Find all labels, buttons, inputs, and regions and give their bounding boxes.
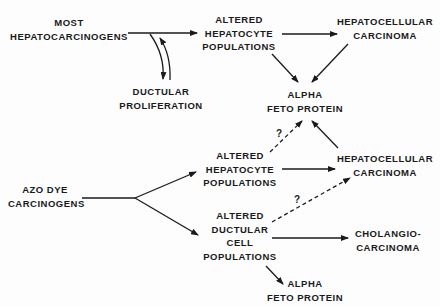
node-label-line: MOST xyxy=(10,16,128,30)
node-hepatocellular-carcinoma-1: HEPATOCELLULAR CARCINOMA xyxy=(335,15,435,42)
edge-hcc-to-afp xyxy=(312,44,348,82)
node-alpha-feto-protein-1: ALPHA FETO PROTEIN xyxy=(262,88,348,115)
node-altered-ductular-cell-populations: ALTERED DUCTULAR CELL POPULATIONS xyxy=(200,209,280,263)
node-label-line: FETO PROTEIN xyxy=(262,102,348,116)
node-label-line: ALPHA xyxy=(263,277,347,291)
node-label-line: CARCINOMA xyxy=(345,241,431,255)
node-label-line: DUCTULAR xyxy=(200,223,280,237)
node-most-hepatocarcinogens: MOST HEPATOCARCINOGENS xyxy=(10,16,128,43)
node-label-line: HEPATOCYTE xyxy=(198,27,280,41)
edge-altered-hep-to-afp xyxy=(272,54,298,82)
node-label-line: ALTERED xyxy=(200,209,280,223)
node-label-line: HEPATOCARCINOGENS xyxy=(10,30,128,44)
node-label-line: POPULATIONS xyxy=(198,40,280,54)
node-label-line: HEPATOCELLULAR xyxy=(335,152,435,166)
node-hepatocellular-carcinoma-2: HEPATOCELLULAR CARCINOMA xyxy=(335,152,435,179)
node-altered-hepatocyte-populations-2: ALTERED HEPATOCYTE POPULATIONS xyxy=(200,149,280,190)
node-label-line: FETO PROTEIN xyxy=(263,291,347,305)
node-label-line: AZO DYE xyxy=(8,183,82,197)
edge-azo-to-altered-hep xyxy=(135,172,196,198)
edge-altered-hep2-to-afp-dashed xyxy=(270,121,302,152)
node-label-line: HEPATOCELLULAR xyxy=(335,15,435,29)
node-label-line: HEPATOCYTE xyxy=(200,163,280,177)
question-mark-annotation: ? xyxy=(294,194,300,205)
node-label-line: DUCTULAR xyxy=(115,85,207,99)
node-label-line: CARCINOGENS xyxy=(8,197,82,211)
node-azo-dye-carcinogens: AZO DYE CARCINOGENS xyxy=(8,183,82,210)
node-label-line: CARCINOMA xyxy=(335,29,435,43)
node-label-line: CARCINOMA xyxy=(335,166,435,180)
question-mark-annotation: ? xyxy=(276,128,282,139)
node-label-line: ALTERED xyxy=(198,13,280,27)
edge-ductular-to-hcc2-dashed xyxy=(272,178,350,222)
node-cholangiocarcinoma: CHOLANGIO- CARCINOMA xyxy=(345,227,431,254)
node-label-line: ALPHA xyxy=(262,88,348,102)
edge-azo-to-altered-ductular xyxy=(135,198,198,235)
node-ductular-proliferation: DUCTULAR PROLIFERATION xyxy=(115,85,207,112)
node-label-line: CHOLANGIO- xyxy=(345,227,431,241)
node-label-line: CELL xyxy=(200,236,280,250)
node-alpha-feto-protein-2: ALPHA FETO PROTEIN xyxy=(263,277,347,304)
node-label-line: POPULATIONS xyxy=(200,176,280,190)
node-label-line: PROLIFERATION xyxy=(115,99,207,113)
edge-hcc2-to-afp xyxy=(312,121,338,148)
node-altered-hepatocyte-populations-1: ALTERED HEPATOCYTE POPULATIONS xyxy=(198,13,280,54)
node-label-line: ALTERED xyxy=(200,149,280,163)
diagram-canvas: MOST HEPATOCARCINOGENS DUCTULAR PROLIFER… xyxy=(0,0,440,307)
node-label-line: POPULATIONS xyxy=(200,250,280,264)
